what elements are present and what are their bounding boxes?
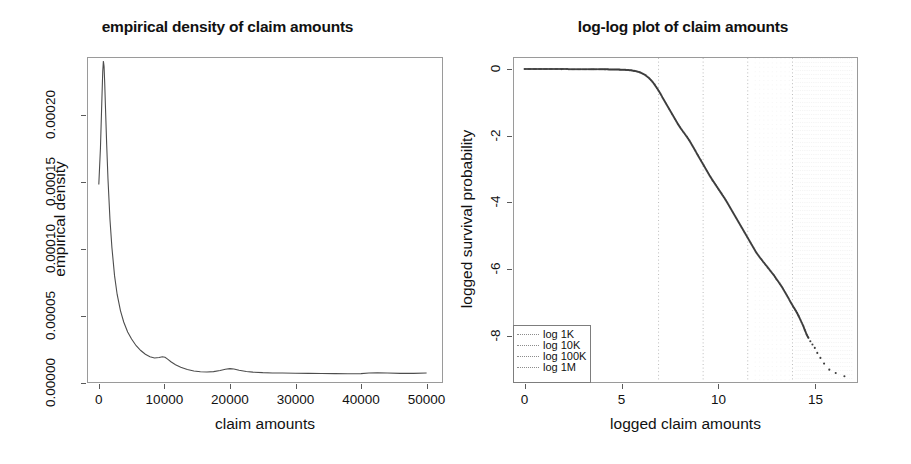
left-y-ticklabel: 0.00000 <box>43 348 58 418</box>
right-x-ticklabel: 0 <box>505 392 545 407</box>
left-y-tick <box>81 249 86 250</box>
left-y-ticklabel: 0.00005 <box>43 280 58 350</box>
right-x-ticklabel: 10 <box>698 392 738 407</box>
right-y-tick <box>507 269 512 270</box>
right-x-tick <box>622 384 623 389</box>
left-x-ticklabel: 40000 <box>327 392 395 407</box>
legend-row: log 1M <box>517 362 586 373</box>
left-x-tick <box>296 384 297 389</box>
legend-key-line-1 <box>517 334 539 335</box>
right-x-tick <box>718 384 719 389</box>
survival-point <box>816 352 818 354</box>
left-y-tick <box>81 316 86 317</box>
right-x-ticklabel: 5 <box>602 392 642 407</box>
survival-point <box>828 369 830 371</box>
left-x-ticklabel: 50000 <box>393 392 461 407</box>
survival-point <box>819 357 821 359</box>
density-curve-path <box>99 61 427 374</box>
right-y-tick <box>507 136 512 137</box>
survival-point <box>843 375 845 377</box>
right-y-tick <box>507 336 512 337</box>
survival-point <box>807 337 809 339</box>
left-x-tick <box>427 384 428 389</box>
panel-empirical-density: empirical density of claim amounts empir… <box>0 0 455 464</box>
left-x-ticklabel: 20000 <box>196 392 264 407</box>
right-x-ticklabel: 15 <box>795 392 835 407</box>
left-y-ticklabel: 0.00020 <box>43 79 58 149</box>
left-y-ticklabel: 0.00015 <box>43 146 58 216</box>
legend-key-line-4 <box>517 367 539 368</box>
survival-point <box>835 372 837 374</box>
left-x-ticklabel: 30000 <box>262 392 330 407</box>
survival-point <box>811 344 813 346</box>
right-y-ticklabel: -4 <box>488 182 503 222</box>
gridline-texture <box>755 58 851 382</box>
panel-log-log-plot: log-log plot of claim amounts logged sur… <box>455 0 911 464</box>
left-y-tick <box>81 182 86 183</box>
left-y-tick <box>81 383 86 384</box>
figure-root: empirical density of claim amounts empir… <box>0 0 911 464</box>
legend-label: log 1M <box>543 362 576 373</box>
right-y-tick <box>507 202 512 203</box>
right-y-ticklabel: -2 <box>488 115 503 155</box>
right-y-tick <box>507 69 512 70</box>
left-x-tick <box>230 384 231 389</box>
left-x-ticklabel: 0 <box>65 392 133 407</box>
left-y-tick <box>81 115 86 116</box>
survival-point <box>823 363 825 365</box>
gridline-legend: log 1Klog 10Klog 100Klog 1M <box>513 325 591 383</box>
legend-key-line-3 <box>517 356 539 357</box>
left-x-tick <box>99 384 100 389</box>
right-y-ticklabel: 0 <box>488 48 503 88</box>
right-y-ticklabel: -8 <box>488 316 503 356</box>
right-x-tick <box>525 384 526 389</box>
right-y-ticklabel: -6 <box>488 249 503 289</box>
survival-point <box>809 340 811 342</box>
left-x-ticklabel: 10000 <box>130 392 198 407</box>
left-x-tick <box>361 384 362 389</box>
legend-key-line-2 <box>517 345 539 346</box>
survival-point <box>814 347 816 349</box>
left-x-tick <box>164 384 165 389</box>
left-y-ticklabel: 0.00010 <box>43 213 58 283</box>
right-x-tick <box>815 384 816 389</box>
